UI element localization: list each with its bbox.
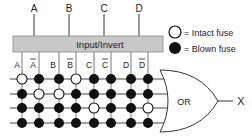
col-label-c-bar: C [102, 60, 108, 70]
col-label-b-bar: B [67, 60, 73, 70]
blown-fuse-icon [34, 74, 44, 84]
blown-fuse-icon [71, 89, 81, 99]
or-gate-label: OR [177, 97, 191, 107]
blown-fuse-icon [54, 118, 64, 128]
blown-fuse-icon [17, 89, 27, 99]
legend-intact-text: = Intact fuse [184, 28, 233, 38]
blown-fuse-icon [143, 74, 153, 84]
col-label-d: D [123, 60, 129, 70]
output-label-x: X [237, 95, 245, 107]
blown-fuse-icon [54, 103, 64, 113]
blown-fuse-icon [106, 89, 116, 99]
blown-fuse-icon [143, 89, 153, 99]
pla-fuse-diagram: A B C D Input/Invert A A B B C C D D [0, 0, 252, 140]
intact-fuse-icon [54, 89, 64, 99]
intact-fuse-icon [89, 103, 99, 113]
blown-fuse-icon [89, 118, 99, 128]
blown-fuse-icon [34, 118, 44, 128]
input-label-b: B [66, 3, 73, 14]
input-label-d: D [135, 3, 142, 14]
col-label-c: C [86, 60, 92, 70]
input-invert-label: Input/Invert [76, 39, 124, 50]
blown-fuse-icon [54, 74, 64, 84]
blown-fuse-icon [143, 118, 153, 128]
blown-fuse-icon [126, 89, 136, 99]
intact-fuse-icon [34, 89, 44, 99]
legend: = Intact fuse = Blown fuse [169, 26, 236, 54]
column-labels: A A B B C C D D [14, 59, 145, 70]
intact-fuse-icon [17, 74, 27, 84]
intact-fuse-icon [169, 26, 181, 38]
blown-fuse-icon [126, 103, 136, 113]
intact-fuse-icon [143, 103, 153, 113]
blown-fuse-icon [89, 89, 99, 99]
product-lines [10, 79, 170, 123]
fuse-grid [17, 74, 153, 128]
blown-fuse-icon [169, 42, 181, 54]
input-label-c: C [100, 3, 107, 14]
blown-fuse-icon [89, 74, 99, 84]
input-lines [34, 14, 139, 36]
blown-fuse-icon [71, 103, 81, 113]
legend-blown-text: = Blown fuse [184, 44, 236, 54]
col-label-a-bar: A [30, 60, 36, 70]
blown-fuse-icon [17, 103, 27, 113]
col-label-d-bar: D [139, 60, 145, 70]
blown-fuse-icon [106, 103, 116, 113]
input-label-a: A [31, 3, 38, 14]
col-label-a: A [14, 60, 20, 70]
blown-fuse-icon [126, 74, 136, 84]
input-labels: A B C D [31, 3, 143, 14]
blown-fuse-icon [71, 118, 81, 128]
blown-fuse-icon [17, 118, 27, 128]
blown-fuse-icon [34, 103, 44, 113]
blown-fuse-icon [106, 118, 116, 128]
col-label-b: B [50, 60, 56, 70]
intact-fuse-icon [71, 74, 81, 84]
blown-fuse-icon [106, 74, 116, 84]
blown-fuse-icon [126, 118, 136, 128]
